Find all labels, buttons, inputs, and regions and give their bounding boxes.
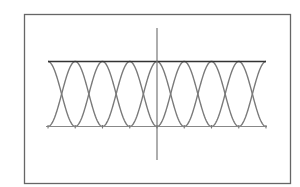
- chart-canvas: [0, 0, 300, 187]
